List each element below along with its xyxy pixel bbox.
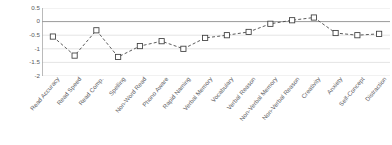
plot-area: Read Accuracy: -0.55Read Speed: -1.25Rea… <box>42 8 390 76</box>
data-point-marker: Rapid Naming: -1 <box>181 46 186 51</box>
x-tick-label: Creativity <box>301 76 322 100</box>
y-tick-label: -1.5 <box>2 59 40 65</box>
data-point-marker: Phono Aware: -0.72 <box>159 39 164 44</box>
data-line <box>53 18 379 57</box>
data-point-marker: Creativity: 0.15 <box>311 15 316 20</box>
data-point-marker: Self-Concept: -0.5 <box>355 33 360 38</box>
data-point-marker: Anxiety: -0.42 <box>333 30 338 35</box>
data-point-marker: Distraction: -0.45 <box>377 31 382 36</box>
y-tick-label: -2 <box>2 73 40 79</box>
line-chart-svg: Read Accuracy: -0.55Read Speed: -1.25Rea… <box>42 8 390 76</box>
chart-figure: 0.50-0.5-1-1.5-2 Read Accuracy: -0.55Rea… <box>0 0 392 145</box>
gridlines <box>42 8 390 76</box>
data-point-marker: Non-Word Read: -0.9 <box>137 43 142 48</box>
x-axis-tick-labels: Read AccuracyRead SpeedRead Comp.Spellin… <box>42 76 392 145</box>
y-tick-label: 0 <box>2 18 40 24</box>
y-tick-label: -0.5 <box>2 32 40 38</box>
x-tick-label: Anxiety <box>326 76 344 96</box>
data-point-marker: Read Comp.: -0.32 <box>94 28 99 33</box>
y-axis-tick-labels: 0.50-0.5-1-1.5-2 <box>0 8 40 76</box>
data-point-marker: Read Speed: -1.25 <box>72 53 77 58</box>
data-point-marker: Vocabulary: -0.5 <box>224 33 229 38</box>
data-point-marker: Non-Verbal Memory: -0.08 <box>268 21 273 26</box>
data-point-marker: Spelling: -1.3 <box>116 54 121 59</box>
y-tick-label: 0.5 <box>2 5 40 11</box>
data-point-marker: Verbal Memory: -0.6 <box>203 35 208 40</box>
series-line <box>53 18 379 57</box>
x-tick-label: Distraction <box>364 76 388 102</box>
data-point-marker: Non-Verbal Reason: 0.05 <box>290 18 295 23</box>
data-point-marker: Verbal Reason: -0.38 <box>246 29 251 34</box>
data-point-marker: Read Accuracy: -0.55 <box>50 34 55 39</box>
x-tick-label: Spelling <box>107 76 126 97</box>
y-tick-label: -1 <box>2 46 40 52</box>
x-tick-label: Read Accuracy <box>30 76 61 112</box>
